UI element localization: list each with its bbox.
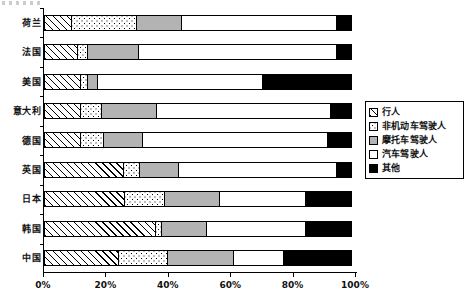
y-axis-label-7: 日本 (0, 194, 41, 204)
bar-segment-1 (44, 162, 124, 178)
bar-segment-5 (336, 44, 352, 60)
legend-swatch-icon (369, 150, 378, 159)
bar-row (43, 67, 357, 96)
y-axis-tick (40, 37, 43, 38)
bar-row (43, 185, 357, 214)
bar-segment-5 (305, 221, 352, 237)
bar-row (43, 126, 357, 155)
bar-segment-1 (44, 44, 78, 60)
y-axis-tick (40, 185, 43, 186)
x-axis-tick-label-1: 0% (20, 280, 66, 291)
legend-item-5: 其他 (369, 161, 459, 175)
bar-segment-2 (80, 103, 102, 119)
y-axis-label-5: 德国 (0, 136, 41, 146)
legend-item-2: 非机动车驾驶人 (369, 119, 459, 133)
y-axis-tick (40, 96, 43, 97)
x-axis-tick-label-6: 100% (332, 280, 378, 291)
stacked-bar (44, 162, 356, 178)
legend-label: 摩托车驾驶人 (382, 135, 437, 145)
y-axis-label-2: 法国 (0, 47, 41, 57)
stacked-bar (44, 74, 356, 90)
bar-segment-2 (123, 162, 140, 178)
y-axis-tick (40, 8, 43, 9)
y-axis-tick (40, 155, 43, 156)
bar-row (43, 8, 357, 37)
bar-segment-3 (167, 250, 234, 266)
stacked-bar (44, 132, 356, 148)
bar-segment-4 (142, 132, 328, 148)
bar-segment-5 (305, 191, 352, 207)
bar-segment-1 (44, 250, 119, 266)
y-axis-label-4: 意大利 (0, 106, 41, 116)
bar-segment-1 (44, 191, 125, 207)
legend-swatch-icon (369, 108, 378, 117)
y-axis-tick (40, 214, 43, 215)
bar-segment-4 (138, 44, 338, 60)
bar-segment-5 (336, 15, 352, 31)
bar-segment-1 (44, 103, 81, 119)
legend-item-3: 摩托车驾驶人 (369, 133, 459, 147)
bar-segment-1 (44, 221, 156, 237)
legend-item-4: 汽车驾驶人 (369, 147, 459, 161)
x-axis-tick (230, 273, 231, 277)
bar-segment-5 (330, 103, 352, 119)
x-axis-tick-label-3: 40% (145, 280, 191, 291)
bar-segment-2 (71, 15, 137, 31)
bar-segment-4 (219, 191, 306, 207)
legend: 行人非机动车驾驶人摩托车驾驶人汽车驾驶人其他 (365, 101, 464, 179)
bar-segment-5 (327, 132, 352, 148)
stacked-bar (44, 250, 356, 266)
legend-swatch-icon (369, 164, 378, 173)
bar-row (43, 155, 357, 184)
bar-segment-1 (44, 132, 81, 148)
y-axis-label-9: 中国 (0, 253, 41, 263)
stacked-bar (44, 103, 356, 119)
stacked-bar (44, 15, 356, 31)
stacked-bar (44, 44, 356, 60)
bar-segment-4 (181, 15, 337, 31)
bar-segment-3 (161, 221, 208, 237)
bar-segment-4 (97, 74, 262, 90)
bar-row (43, 96, 357, 125)
bar-segment-4 (233, 250, 284, 266)
x-axis-tick-label-2: 20% (82, 280, 128, 291)
bar-segment-3 (164, 191, 220, 207)
top-edge-artifact (2, 1, 40, 5)
bar-segment-1 (44, 15, 72, 31)
bar-row (43, 214, 357, 243)
legend-items: 行人非机动车驾驶人摩托车驾驶人汽车驾驶人其他 (369, 105, 459, 175)
y-axis-label-1: 荷兰 (0, 18, 41, 28)
stacked-bar (44, 191, 356, 207)
plot-area: 0%20%40%60%80%100% (43, 8, 357, 273)
legend-label: 行人 (382, 107, 400, 117)
bar-segment-2 (124, 191, 165, 207)
bar-segment-5 (336, 162, 352, 178)
bar-segment-4 (206, 221, 306, 237)
x-axis-tick (43, 273, 44, 277)
y-axis-label-8: 韩国 (0, 224, 41, 234)
x-axis-tick (105, 273, 106, 277)
bar-segment-3 (139, 162, 180, 178)
legend-label: 非机动车驾驶人 (382, 121, 446, 131)
bar-segment-4 (178, 162, 337, 178)
stacked-bar (44, 221, 356, 237)
bar-segment-3 (87, 44, 138, 60)
y-axis-tick (40, 67, 43, 68)
x-axis-tick (168, 273, 169, 277)
y-axis-tick (40, 126, 43, 127)
bar-row (43, 37, 357, 66)
bar-segment-4 (156, 103, 331, 119)
bar-segment-5 (283, 250, 352, 266)
x-axis-tick-label-4: 60% (207, 280, 253, 291)
bar-segment-3 (136, 15, 183, 31)
x-axis-tick-label-5: 80% (270, 280, 316, 291)
bar-segment-5 (262, 74, 352, 90)
legend-item-1: 行人 (369, 105, 459, 119)
y-axis-tick (40, 244, 43, 245)
x-axis-tick (355, 273, 356, 277)
legend-label: 其他 (382, 163, 400, 173)
bar-segment-2 (80, 132, 103, 148)
stacked-bar-chart: 荷兰法国美国意大利德国英国日本韩国中国 0%20%40%60%80%100% 行… (0, 0, 468, 293)
y-axis-label-6: 英国 (0, 165, 41, 175)
x-axis-tick (293, 273, 294, 277)
